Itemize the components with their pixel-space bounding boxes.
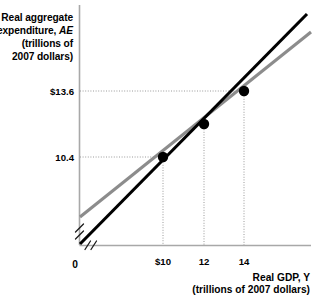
chart-svg: Real aggregate expenditure, AE (trillion… xyxy=(0,0,314,295)
aggregate-expenditure-line xyxy=(80,32,311,217)
x-tick-label-12: 12 xyxy=(199,256,210,267)
data-point-12 xyxy=(199,119,209,129)
x-axis-label-main: Real GDP, Y xyxy=(253,272,311,283)
x-tick-label-14: 14 xyxy=(239,256,250,267)
y-axis-label-ae-symbol: AE xyxy=(58,25,74,36)
y-axis-label-line4: 2007 dollars) xyxy=(12,51,73,62)
data-point-10 xyxy=(158,152,168,162)
y-tick-label-10-4: 10.4 xyxy=(55,152,74,163)
y-axis-label-line2: expenditure, AE xyxy=(0,25,74,36)
aggregate-expenditure-chart: Real aggregate expenditure, AE (trillion… xyxy=(0,0,314,295)
origin-label: 0 xyxy=(72,259,78,270)
y-tick-label-13-6: $13.6 xyxy=(50,86,74,97)
y-axis-label: Real aggregate expenditure, AE (trillion… xyxy=(0,12,74,62)
data-point-14 xyxy=(239,86,249,96)
y-axis-label-line3: (trillions of xyxy=(22,38,74,49)
forty-five-degree-line xyxy=(80,14,307,244)
x-tick-label-10: $10 xyxy=(155,256,171,267)
x-axis-label-sub: (trillions of 2007 dollars) xyxy=(192,284,310,295)
y-axis-label-line1: Real aggregate xyxy=(1,12,73,23)
y-axis-label-line2-text: expenditure, xyxy=(0,25,59,36)
